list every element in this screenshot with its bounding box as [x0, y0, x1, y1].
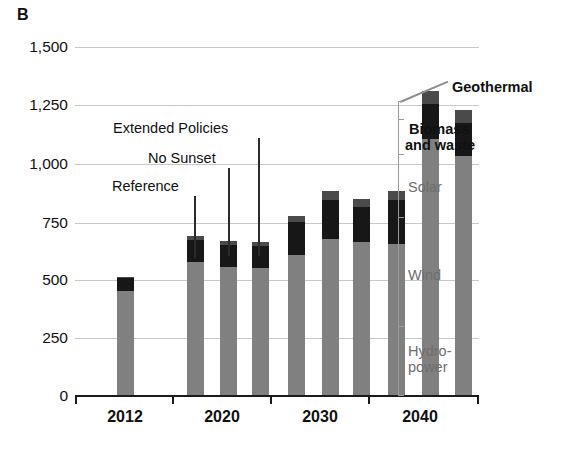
legend-label-biomass-line1: Biomass [409, 122, 469, 138]
bracket-wind [398, 217, 404, 327]
gridline-1000 [75, 164, 479, 165]
y-tick-1000: 1,000 [29, 155, 68, 173]
x-axis-tick-1 [172, 395, 174, 404]
x-tick-2040: 2040 [402, 408, 438, 426]
segment-biomass [288, 222, 305, 255]
figure-panel-b: B 1,500 1,250 1,000 750 500 250 0 [0, 0, 572, 454]
segment-hydropower [455, 324, 472, 395]
segment-wind [353, 255, 370, 325]
y-axis-labels: 1,500 1,250 1,000 750 500 250 0 [0, 0, 68, 454]
gridline-1500 [75, 47, 479, 48]
callout-no-sunset: No Sunset [148, 150, 216, 166]
y-tick-0: 0 [59, 387, 68, 405]
y-tick-750: 750 [42, 214, 68, 232]
segment-biomass [322, 200, 339, 239]
segment-geothermal [322, 191, 339, 199]
segment-biomass [117, 278, 134, 291]
y-tick-250: 250 [42, 329, 68, 347]
callout-reference: Reference [112, 178, 179, 194]
bracket-solar [398, 154, 404, 218]
x-axis-tick-3 [368, 395, 370, 404]
legend-label-biomass-line2: and waste [405, 138, 475, 154]
bracket-geothermal [398, 101, 404, 120]
legend-label-hydro-line2: power [408, 360, 448, 376]
legend-label-hydro-line1: Hydro- [408, 344, 452, 360]
segment-hydropower [252, 326, 269, 395]
gridline-1250 [75, 105, 479, 106]
segment-solar [187, 262, 204, 269]
bar-2030-reference [288, 216, 305, 395]
segment-wind [220, 273, 237, 326]
segment-wind [422, 182, 439, 324]
segment-biomass [252, 246, 269, 268]
bracket-biomass [398, 119, 404, 155]
y-tick-1250: 1,250 [29, 96, 68, 114]
segment-geothermal [353, 199, 370, 207]
legend-label-wind: Wind [408, 268, 441, 284]
bar-2020-no-sunset [220, 241, 237, 395]
x-tick-2020: 2020 [204, 408, 240, 426]
bracket-hydropower [398, 326, 404, 396]
segment-biomass [187, 240, 204, 262]
segment-hydropower [117, 326, 134, 395]
x-axis-tick-2 [270, 395, 272, 404]
bar-2030-no-sunset [322, 191, 339, 395]
segment-biomass [353, 207, 370, 243]
segment-hydropower [288, 325, 305, 395]
x-axis-tick-right [477, 395, 479, 404]
legend-label-solar: Solar [408, 180, 442, 196]
legend-label-geothermal: Geothermal [452, 80, 533, 96]
x-axis-line [75, 395, 479, 397]
segment-solar [322, 239, 339, 252]
segment-wind [117, 293, 134, 326]
gridline-250 [75, 338, 479, 339]
segment-wind [455, 195, 472, 324]
segment-wind [322, 252, 339, 325]
bar-2020-extended-policies [252, 242, 269, 395]
segment-solar [353, 242, 370, 255]
leader-line-reference [194, 196, 196, 258]
segment-hydropower [353, 325, 370, 395]
leader-line-extended-policies [258, 138, 260, 256]
x-tick-2012: 2012 [107, 408, 143, 426]
bar-2030-extended-policies [353, 199, 370, 395]
x-axis-tick-left [75, 395, 77, 404]
segment-solar [288, 255, 305, 264]
segment-wind [187, 270, 204, 327]
segment-hydropower [220, 326, 237, 395]
bar-2012-reference [117, 277, 134, 395]
segment-wind [252, 274, 269, 326]
leader-line-no-sunset [228, 168, 230, 256]
segment-hydropower [187, 326, 204, 395]
segment-solar [455, 156, 472, 195]
x-tick-2030: 2030 [302, 408, 338, 426]
segment-geothermal [422, 91, 439, 104]
callout-extended-policies: Extended Policies [113, 120, 228, 136]
segment-hydropower [322, 325, 339, 395]
y-tick-1500: 1,500 [29, 38, 68, 56]
gridline-750 [75, 223, 479, 224]
segment-wind [288, 265, 305, 325]
y-tick-500: 500 [42, 271, 68, 289]
bar-2020-reference [187, 236, 204, 395]
